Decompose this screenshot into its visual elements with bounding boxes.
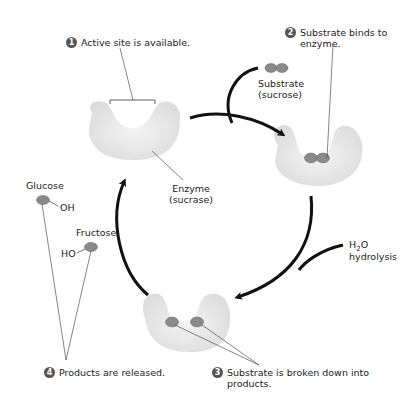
enzyme-name-text: (sucrase) <box>168 194 214 205</box>
step-4-label: 4 Products are released. <box>44 367 165 378</box>
step-2-badge: 2 <box>285 27 296 38</box>
step-3-text: Substrate is broken down into products. <box>227 367 372 389</box>
step-3-label: 3 Substrate is broken down into products… <box>212 367 372 389</box>
substrate-molecule <box>265 64 288 73</box>
fructose-molecule <box>77 243 98 254</box>
step-1-badge: 1 <box>66 37 77 48</box>
leader-step1 <box>120 48 133 100</box>
water-o: O <box>361 239 368 250</box>
glucose-oh-label: OH <box>60 202 75 213</box>
step-2-text: Substrate binds to enzyme. <box>300 27 395 49</box>
active-site-bracket <box>110 100 155 104</box>
leader-step4a <box>42 204 66 360</box>
fructose-label: Fructose <box>76 227 116 238</box>
step-3-badge: 3 <box>212 367 223 378</box>
arrow-1-to-2 <box>190 114 282 134</box>
step-4-badge: 4 <box>44 367 55 378</box>
enzyme-products <box>143 294 230 352</box>
water-label: H2O <box>349 239 368 250</box>
step-2-label: 2 Substrate binds to enzyme. <box>285 27 395 49</box>
glucose-molecule <box>37 196 59 207</box>
substrate-label: Substrate (sucrose) <box>258 78 302 100</box>
enzyme-label: Enzyme (sucrase) <box>168 183 214 205</box>
hydrolysis-label: hydrolysis <box>349 251 397 262</box>
leader-step4b <box>66 251 91 360</box>
enzyme-bound <box>274 125 363 186</box>
substrate-label-text: Substrate <box>258 78 302 89</box>
fructose-ho-label: HO <box>61 248 76 259</box>
water-entry-arrow <box>299 245 343 270</box>
arrow-3-to-1 <box>117 182 148 295</box>
step-4-text: Products are released. <box>59 367 165 378</box>
enzyme-label-text: Enzyme <box>168 183 214 194</box>
step-1-text: Active site is available. <box>81 37 190 48</box>
leader-enzyme <box>152 151 183 180</box>
step-1-label: 1 Active site is available. <box>66 37 190 48</box>
enzyme-empty <box>89 101 180 160</box>
glucose-label: Glucose <box>26 180 64 191</box>
arrow-2-to-3 <box>238 196 312 297</box>
substrate-name-text: (sucrose) <box>258 89 302 100</box>
